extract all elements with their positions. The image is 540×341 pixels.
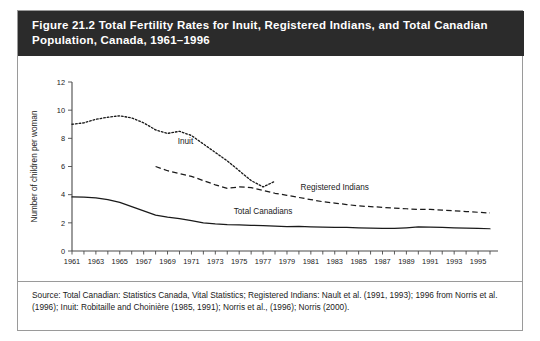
x-tick-label: 1961 — [64, 257, 80, 266]
x-tick-label: 1995 — [470, 257, 486, 266]
source-divider — [18, 281, 522, 282]
y-tick-label: 2 — [61, 219, 65, 228]
series-label-inuit: Inuit — [178, 137, 194, 146]
figure-title: Figure 21.2 Total Fertility Rates for In… — [32, 18, 510, 48]
y-tick-label: 0 — [61, 247, 65, 256]
series-label-registered-indians: Registered Indians — [301, 183, 369, 192]
x-tick-label: 1991 — [422, 257, 438, 266]
series-label-total-canadians: Total Canadians — [234, 207, 293, 216]
source-note: Source: Total Canadian: Statistics Canad… — [32, 290, 510, 313]
x-tick-label: 1989 — [398, 257, 414, 266]
figure-container: Figure 21.2 Total Fertility Rates for In… — [17, 10, 523, 331]
x-tick-label: 1981 — [303, 257, 319, 266]
x-tick-label: 1963 — [88, 257, 104, 266]
x-tick-label: 1985 — [350, 257, 366, 266]
x-tick-label: 1973 — [207, 257, 223, 266]
x-tick-label: 1977 — [255, 257, 271, 266]
y-tick-label: 6 — [61, 162, 65, 171]
fertility-rate-line-chart: 024681012Number of children per woman196… — [18, 56, 524, 281]
x-tick-label: 1993 — [446, 257, 462, 266]
x-tick-label: 1969 — [159, 257, 175, 266]
x-tick-label: 1987 — [374, 257, 390, 266]
x-tick-label: 1971 — [183, 257, 199, 266]
x-tick-label: 1983 — [327, 257, 343, 266]
x-tick-label: 1967 — [135, 257, 151, 266]
y-axis-title: Number of children per woman — [30, 110, 39, 222]
x-tick-label: 1979 — [279, 257, 295, 266]
figure-header-bar: Figure 21.2 Total Fertility Rates for In… — [18, 11, 524, 56]
y-tick-label: 4 — [61, 190, 65, 199]
x-tick-label: 1975 — [231, 257, 247, 266]
y-tick-label: 8 — [61, 134, 65, 143]
y-tick-label: 12 — [57, 78, 65, 87]
y-tick-label: 10 — [57, 106, 65, 115]
chart-plot-area: 024681012Number of children per woman196… — [18, 56, 524, 281]
x-tick-label: 1965 — [112, 257, 128, 266]
series-line-inuit — [72, 116, 275, 187]
